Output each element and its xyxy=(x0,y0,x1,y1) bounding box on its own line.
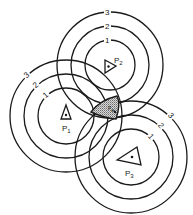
p1-dot xyxy=(65,114,67,116)
p3-triangle-icon xyxy=(117,147,141,165)
p2-ring-1-label: 1 xyxy=(105,36,110,45)
intersection-point xyxy=(114,111,116,113)
p2-label: P2 xyxy=(114,56,123,66)
station-p3: P3 xyxy=(117,147,141,179)
p2-ring-3-label: 3 xyxy=(105,8,110,17)
p3-label: P3 xyxy=(125,169,134,179)
station-p1: P1 xyxy=(61,105,71,134)
p2-dot xyxy=(107,65,109,67)
p3-dot xyxy=(131,156,134,159)
p1-label: P1 xyxy=(62,124,71,134)
p1-triangle-icon xyxy=(61,105,71,119)
trilateration-diagram: 1 2 3 1 2 3 1 2 3 Pe P2 xyxy=(0,0,193,215)
p2-ring-2-label: 2 xyxy=(105,22,110,31)
station-p2: P2 xyxy=(105,56,123,73)
